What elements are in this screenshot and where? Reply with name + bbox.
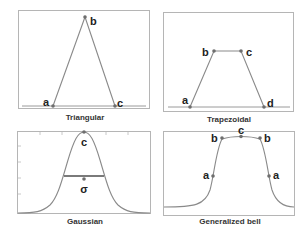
label-a: a	[182, 94, 189, 106]
panel-gaussian: c σ Gaussian	[18, 130, 151, 226]
point-sigma	[82, 177, 86, 181]
trapezoidal-curve	[190, 51, 264, 107]
point-a	[188, 105, 192, 109]
panel-generalized-bell: b c b a a Generalized bell	[164, 124, 295, 226]
label-c: c	[117, 97, 123, 109]
plot-frame	[19, 11, 150, 109]
label-c: c	[238, 124, 244, 136]
caption-triangular: Triangular	[66, 113, 105, 122]
label-a-left: a	[203, 169, 210, 181]
point-b-right	[258, 136, 262, 140]
point-b	[83, 15, 87, 19]
point-a-right	[267, 174, 271, 178]
membership-functions-diagram: a b c Triangular a b c d Trapezoidal	[0, 0, 308, 236]
axis-ticks	[18, 132, 128, 194]
panel-trapezoidal: a b c d Trapezoidal	[164, 13, 294, 125]
panel-triangular: a b c Triangular	[19, 11, 150, 123]
point-c	[239, 49, 243, 53]
caption-trapezoidal: Trapezoidal	[207, 115, 251, 124]
label-sigma: σ	[80, 183, 88, 195]
label-c: c	[246, 46, 252, 58]
triangular-curve	[53, 17, 115, 106]
label-a-right: a	[273, 169, 280, 181]
point-b	[212, 49, 216, 53]
label-b-right: b	[264, 132, 271, 144]
point-a	[51, 104, 55, 108]
label-b: b	[202, 46, 209, 58]
label-d: d	[267, 97, 274, 109]
label-c: c	[81, 136, 87, 148]
caption-gaussian: Gaussian	[67, 217, 103, 226]
label-b-left: b	[211, 132, 218, 144]
point-c	[82, 130, 86, 134]
label-b: b	[90, 15, 97, 27]
label-a: a	[43, 96, 50, 108]
point-b-left	[220, 136, 224, 140]
point-a-left	[211, 174, 215, 178]
point-d	[262, 105, 266, 109]
caption-generalized-bell: Generalized bell	[199, 217, 260, 226]
